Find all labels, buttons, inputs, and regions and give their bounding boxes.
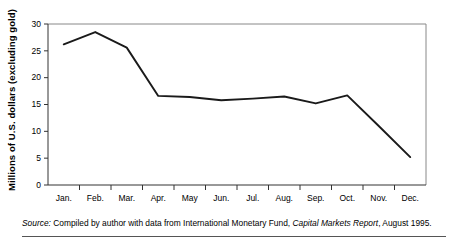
x-axis-tick-label: Jun.: [213, 193, 229, 203]
y-axis-tick-label: 30: [32, 19, 42, 29]
x-axis-tick-label: Jul.: [246, 193, 259, 203]
x-axis-tick-label: Feb.: [87, 193, 104, 203]
source-note: Source: Compiled by author with data fro…: [22, 218, 446, 229]
x-axis-tick-label: May: [182, 193, 199, 203]
x-axis-tick-label: Apr.: [151, 193, 166, 203]
data-series-line: [64, 32, 411, 157]
y-axis-tick-label: 25: [32, 46, 42, 56]
chart-figure: Millions of U.S. dollars (excluding gold…: [0, 0, 456, 242]
y-axis-tick-label: 20: [32, 72, 42, 82]
x-axis-tick-label: Aug.: [276, 193, 294, 203]
x-axis-tick-label: Nov.: [370, 193, 387, 203]
axis-lines: [48, 24, 426, 185]
y-axis-tick-label: 10: [32, 126, 42, 136]
horizontal-rule: [22, 236, 446, 237]
y-axis-tick-label: 0: [36, 180, 41, 190]
source-text-before: Compiled by author with data from Intern…: [51, 218, 293, 228]
x-axis-tick-group: Jan.Feb.Mar.Apr.MayJun.Jul.Aug.Sep.Oct.N…: [56, 185, 419, 203]
y-axis-tick-group: 051015202530: [32, 19, 48, 190]
y-axis-tick-label: 15: [32, 99, 42, 109]
x-axis-tick-label: Sep.: [307, 193, 325, 203]
x-axis-tick-label: Mar.: [118, 193, 135, 203]
x-axis-tick-label: Oct.: [339, 193, 355, 203]
source-text-after: , August 1995.: [378, 218, 432, 228]
line-chart-plot: 051015202530 Jan.Feb.Mar.Apr.MayJun.Jul.…: [0, 0, 456, 215]
y-axis-tick-label: 5: [36, 153, 41, 163]
source-label: Source:: [22, 218, 51, 228]
source-report-title: Capital Markets Report: [292, 218, 378, 228]
x-axis-tick-label: Jan.: [56, 193, 72, 203]
x-axis-tick-label: Dec.: [402, 193, 419, 203]
